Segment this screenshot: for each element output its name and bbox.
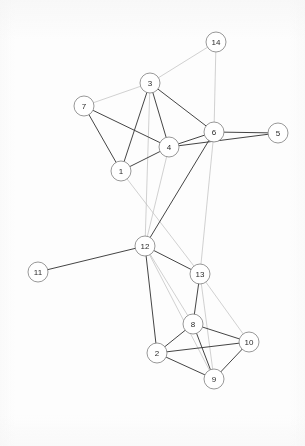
graph-node-label-3: 3 — [148, 79, 153, 88]
graph-node-label-14: 14 — [212, 38, 221, 47]
graph-node-6[interactable]: 6 — [204, 122, 224, 142]
graph-node-7[interactable]: 7 — [74, 96, 94, 116]
graph-node-label-2: 2 — [155, 349, 160, 358]
graph-edge-9-10 — [221, 349, 243, 372]
graph-edge-11-12 — [47, 248, 136, 270]
graph-edge-13-10 — [206, 282, 244, 335]
graph-edge-4-12 — [147, 156, 167, 237]
graph-edge-7-1 — [89, 114, 117, 162]
graph-edge-3-4 — [153, 92, 167, 138]
graph-node-label-13: 13 — [196, 270, 205, 279]
graph-node-label-4: 4 — [167, 143, 172, 152]
graph-figure-canvas: 1234567891011121314 — [0, 0, 305, 446]
graph-edge-6-13 — [201, 141, 213, 264]
graph-node-label-6: 6 — [212, 128, 217, 137]
graph-edge-1-4 — [129, 151, 160, 167]
graph-edge-8-2 — [164, 330, 185, 347]
graph-node-3[interactable]: 3 — [140, 73, 160, 93]
graph-node-2[interactable]: 2 — [147, 343, 167, 363]
graph-node-label-5: 5 — [276, 129, 281, 138]
network-graph-svg: 1234567891011121314 — [0, 0, 305, 446]
graph-node-label-7: 7 — [82, 102, 87, 111]
graph-node-11[interactable]: 11 — [28, 262, 48, 282]
graph-node-label-11: 11 — [34, 268, 43, 277]
graph-edge-2-9 — [166, 357, 206, 375]
graph-node-4[interactable]: 4 — [159, 137, 179, 157]
graph-node-1[interactable]: 1 — [111, 161, 131, 181]
graph-node-12[interactable]: 12 — [135, 236, 155, 256]
graph-node-8[interactable]: 8 — [183, 314, 203, 334]
graph-edge-3-7 — [93, 86, 141, 103]
graph-edge-13-8 — [194, 283, 198, 314]
graph-edge-3-6 — [158, 89, 207, 126]
graph-edge-6-14 — [214, 51, 216, 122]
graph-edge-3-14 — [158, 47, 208, 78]
graph-edge-3-12 — [145, 92, 149, 236]
graph-edge-12-13 — [153, 250, 191, 269]
graph-node-label-8: 8 — [191, 320, 196, 329]
graph-node-13[interactable]: 13 — [190, 264, 210, 284]
graph-edge-5-6 — [223, 132, 268, 133]
graph-edge-1-13 — [127, 179, 194, 267]
graph-node-14[interactable]: 14 — [206, 32, 226, 52]
node-layer: 1234567891011121314 — [28, 32, 288, 389]
graph-node-10[interactable]: 10 — [239, 332, 259, 352]
graph-edge-12-8 — [150, 254, 188, 316]
graph-node-label-9: 9 — [212, 375, 217, 384]
graph-node-label-1: 1 — [119, 167, 124, 176]
graph-node-label-10: 10 — [245, 338, 254, 347]
graph-node-label-12: 12 — [141, 242, 150, 251]
graph-edge-12-2 — [146, 255, 156, 343]
graph-node-5[interactable]: 5 — [268, 123, 288, 143]
graph-node-9[interactable]: 9 — [204, 369, 224, 389]
